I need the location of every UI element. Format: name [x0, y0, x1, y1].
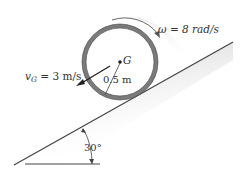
- diagram-canvas: ω = 8 rad/s G 0.5 m vG = 3 m/s 30°: [0, 0, 246, 179]
- center-label: G: [123, 54, 131, 66]
- angle-arrow-bottom: [89, 159, 94, 164]
- radius-label: 0.5 m: [103, 74, 132, 85]
- angle-label: 30°: [84, 142, 102, 153]
- omega-label: ω = 8 rad/s: [158, 23, 220, 35]
- velocity-label: vG = 3 m/s: [25, 70, 81, 84]
